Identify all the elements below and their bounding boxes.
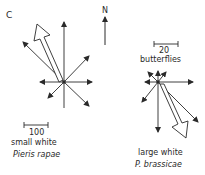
right-vector-rose: [142, 71, 198, 138]
mean-vector-arrow-right: [160, 84, 188, 138]
right-common-name: large white: [138, 148, 183, 157]
right-scale-unit: butterflies: [140, 55, 181, 64]
panel-label: C: [6, 11, 12, 20]
right-species-name: P. brassicae: [135, 160, 182, 169]
north-label: N: [102, 6, 108, 15]
left-common-name: small white: [11, 138, 57, 147]
left-vector-rose: [23, 22, 92, 108]
right-scale-value: 20: [159, 46, 169, 55]
mean-vector-arrow-left: [34, 24, 63, 82]
left-scale-value: 100: [29, 128, 44, 137]
left-species-name: Pieris rapae: [13, 150, 60, 159]
